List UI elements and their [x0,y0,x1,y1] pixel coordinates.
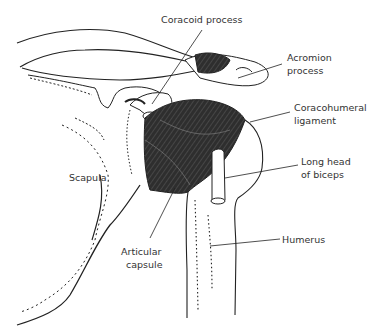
label-scapula: Scapula [69,172,107,184]
label-coracoid-process: Coracoid process [161,14,242,26]
label-long-head-line2: of biceps [301,169,344,181]
label-articular-line2: capsule [126,259,163,271]
label-long-head-line1: Long head [301,156,351,168]
anatomy-drawing [0,0,378,336]
label-acromion-line1: Acromion [287,52,332,64]
label-humerus: Humerus [282,234,325,246]
shoulder-joint-diagram: Coracoid process Acromion process Coraco… [0,0,378,336]
clavicle [17,30,200,80]
acromion [185,53,268,86]
label-articular-line1: Articular [121,246,161,258]
label-coracohumeral-line1: Coracohumeral [294,102,367,114]
label-coracohumeral-line2: ligament [294,115,336,127]
articular-capsule [144,100,245,194]
label-acromion-line2: process [287,65,324,77]
biceps-tendon [211,149,225,204]
